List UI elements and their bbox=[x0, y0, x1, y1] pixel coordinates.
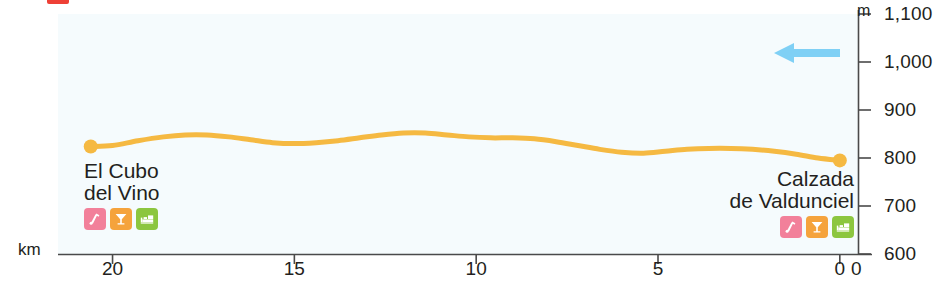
y-axis-tick-1000: 1,000 bbox=[884, 51, 933, 73]
direction-arrow-icon bbox=[774, 40, 840, 66]
y-axis-tick-1100: 1,100 bbox=[884, 3, 933, 25]
place-name-line1: Calzada bbox=[729, 168, 854, 190]
hostel-icon[interactable] bbox=[84, 208, 106, 230]
hotel-bed-icon[interactable] bbox=[136, 208, 158, 230]
x-axis-tick-20: 20 bbox=[102, 258, 123, 280]
x-axis-unit-label: km bbox=[18, 240, 41, 260]
place-name-line2: del Vino bbox=[84, 182, 160, 204]
bar-icon[interactable] bbox=[806, 216, 828, 238]
x-axis-tick-0: 0 bbox=[835, 258, 846, 280]
elevation-curve-group bbox=[91, 133, 840, 161]
y-axis-unit-label: m bbox=[857, 2, 870, 20]
waypoint-marker-dot-0[interactable] bbox=[84, 139, 98, 153]
place-label-calzada-de-valdunciel: Calzada de Valdunciel bbox=[729, 168, 854, 238]
bar-icon[interactable] bbox=[110, 208, 132, 230]
x-axis-tick-10: 10 bbox=[466, 258, 487, 280]
amenity-icon-list bbox=[84, 208, 160, 230]
axis-origin-label: 0 bbox=[851, 258, 862, 280]
x-axis-tick-15: 15 bbox=[284, 258, 305, 280]
place-name-line1: El Cubo bbox=[84, 160, 160, 182]
y-axis-tick-600: 600 bbox=[884, 243, 916, 265]
place-name-line2: de Valdunciel bbox=[729, 190, 854, 212]
amenity-icon-list bbox=[729, 216, 854, 238]
place-label-el-cubo-del-vino: El Cubo del Vino bbox=[84, 160, 160, 230]
hotel-bed-icon[interactable] bbox=[832, 216, 854, 238]
elevation-profile-line bbox=[91, 133, 840, 161]
hostel-icon[interactable] bbox=[780, 216, 802, 238]
y-axis-tick-900: 900 bbox=[884, 99, 916, 121]
elevation-profile-chart: m 6007008009001,0001,100 0 km 20151050 E… bbox=[0, 0, 942, 300]
waypoint-marker-dot-1[interactable] bbox=[833, 153, 847, 167]
y-axis-tick-700: 700 bbox=[884, 195, 916, 217]
marker-dots-group bbox=[84, 139, 847, 167]
y-axis-tick-800: 800 bbox=[884, 147, 916, 169]
x-axis-tick-5: 5 bbox=[653, 258, 664, 280]
